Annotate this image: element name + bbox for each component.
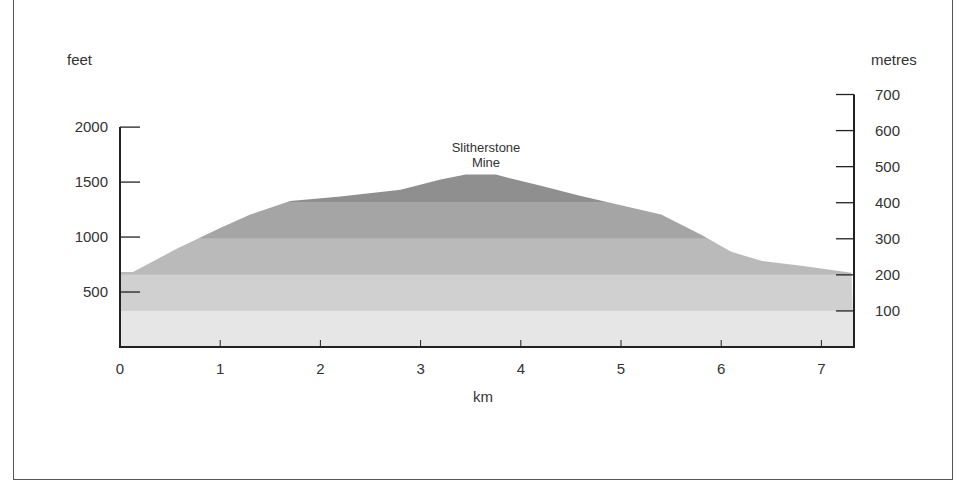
- y-right-tick-label: 700: [875, 87, 900, 102]
- annotation-line-1: Slitherstone: [426, 140, 546, 155]
- elevation-band-300-400: [120, 203, 854, 239]
- x-tick-label: 3: [406, 361, 436, 376]
- x-tick-label: 7: [806, 361, 836, 376]
- annotation-line-2: Mine: [426, 155, 546, 170]
- x-tick-label: 6: [706, 361, 736, 376]
- y-right-tick-label: 600: [875, 123, 900, 138]
- x-tick-label: 1: [205, 361, 235, 376]
- x-axis-label: km: [473, 389, 493, 404]
- y-right-tick-label: 300: [875, 231, 900, 246]
- elevation-band-0-100: [120, 311, 854, 347]
- y-left-tick-label: 1500: [48, 174, 108, 189]
- elevation-band-100-200: [120, 275, 854, 311]
- y-left-tick-label: 1000: [48, 229, 108, 244]
- annotation-slitherstone-mine: Slitherstone Mine: [426, 140, 546, 170]
- elevation-band-200-300: [120, 239, 854, 275]
- x-tick-label: 4: [506, 361, 536, 376]
- elevation-bands: [120, 95, 854, 347]
- x-tick-label: 2: [305, 361, 335, 376]
- y-axis-right-label: metres: [871, 52, 917, 67]
- y-left-tick-label: 2000: [48, 119, 108, 134]
- y-right-tick-label: 200: [875, 267, 900, 282]
- y-left-tick-label: 500: [48, 284, 108, 299]
- y-right-tick-label: 400: [875, 195, 900, 210]
- y-right-tick-label: 500: [875, 159, 900, 174]
- elevation-profile-plot: [0, 0, 963, 503]
- y-right-tick-label: 100: [875, 303, 900, 318]
- y-axis-left-label: feet: [67, 52, 92, 67]
- x-tick-label: 0: [105, 361, 135, 376]
- x-tick-label: 5: [606, 361, 636, 376]
